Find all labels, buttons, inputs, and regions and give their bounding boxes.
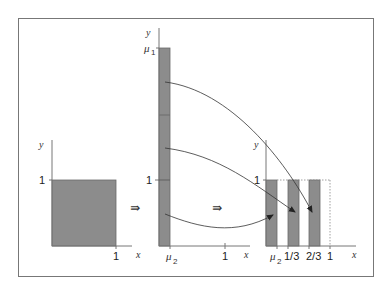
strip-1-fill — [266, 180, 277, 246]
x-axis-label: x — [243, 249, 249, 260]
y-axis-label: y — [145, 27, 151, 38]
x-label-mu: μ — [269, 250, 276, 262]
x-label-one-third: 1/3 — [284, 250, 299, 262]
arrow-bottom — [165, 214, 273, 228]
panel-tall-strip: y x μ 1 1 μ 2 1 — [143, 27, 250, 266]
strip-2-fill — [288, 180, 299, 246]
x-strip-label-mu: μ — [165, 250, 172, 262]
x-strip-label-sub: 2 — [173, 257, 178, 266]
y-tick-label: 1 — [39, 174, 45, 186]
y-tick-label: 1 — [146, 174, 152, 186]
transition-arrow-2: ⇛ — [212, 201, 222, 215]
strip-3-fill — [309, 180, 320, 246]
panel-three-strips: y x 1 μ 2 1/3 2/3 1 — [253, 139, 357, 266]
x-label-one: 1 — [327, 250, 333, 262]
x-tick-label: 1 — [222, 250, 228, 262]
y-axis-label: y — [253, 139, 259, 150]
x-axis-label: x — [351, 249, 357, 260]
transition-arrow-1: ⇛ — [130, 201, 140, 215]
x-tick-label: 1 — [113, 250, 119, 262]
x-label-two-thirds: 2/3 — [306, 250, 321, 262]
y-top-label-sub: 1 — [151, 48, 156, 57]
x-label-mu-sub: 2 — [277, 257, 282, 266]
tall-strip-fill — [159, 48, 170, 246]
diagram-canvas: y x 1 1 ⇛ y x μ 1 1 μ 2 1 ⇛ — [0, 0, 390, 290]
unit-square-fill — [52, 180, 116, 246]
panel-unit-square: y x 1 1 — [38, 139, 141, 262]
y-axis-label: y — [38, 139, 44, 150]
y-top-label-mu: μ — [143, 42, 150, 54]
x-axis-label: x — [135, 249, 141, 260]
